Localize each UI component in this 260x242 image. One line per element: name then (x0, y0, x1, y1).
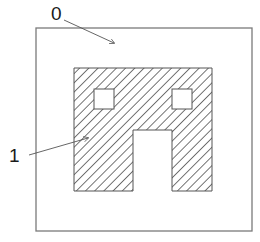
figure-diagram: 0 1 (0, 0, 260, 242)
right-window-opening (172, 89, 192, 109)
label-0-text: 0 (51, 3, 62, 24)
left-window-opening (94, 89, 114, 109)
label-1-text: 1 (9, 145, 20, 166)
